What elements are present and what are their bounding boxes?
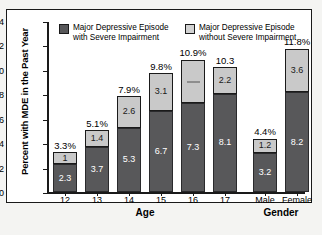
legend-line-2: without Severe Impairment <box>199 33 296 42</box>
y-tick-label-10: 10 <box>0 66 4 76</box>
bar-segment-light: 1.4 <box>85 130 109 147</box>
bar-age-12[interactable]: 3.3% 1 2.3 <box>53 152 77 192</box>
x-tick-label-gender-female: Female <box>282 195 312 205</box>
x-tick-label-age-12: 12 <box>60 195 70 205</box>
bar-segment-light: 3.1 <box>149 73 173 111</box>
bar-total-label: 10.3 <box>216 55 235 66</box>
bar-gender-male[interactable]: 4.4% 1.2 3.2 <box>253 139 277 192</box>
bars-container: 3.3% 1 2.3 5.1% 1.4 3.7 7.9% 2.6 5.3 9.8… <box>47 22 305 192</box>
bar-total-label: 5.1% <box>86 118 108 129</box>
bar-age-16[interactable]: 10.9% 7.3 <box>181 60 205 192</box>
bar-age-15[interactable]: 9.8% 3.1 6.7 <box>149 73 173 192</box>
bar-age-13[interactable]: 5.1% 1.4 3.7 <box>85 130 109 192</box>
y-tick-label-6: 6 <box>0 115 4 125</box>
bar-segment-dark: 2.3 <box>53 164 77 192</box>
bar-segment-dark: 3.2 <box>253 153 277 192</box>
x-axis-line <box>47 192 305 194</box>
bar-segment-dark: 6.7 <box>149 111 173 192</box>
obscured-value-dash <box>187 81 200 83</box>
legend-line-1: Major Depressive Episode <box>73 23 169 32</box>
bar-total-label: 4.4% <box>254 126 276 137</box>
legend-label-without-severe-impairment: Major Depressive Episode without Severe … <box>199 23 296 44</box>
legend-item-with-severe-impairment: Major Depressive Episode with Severe Imp… <box>59 23 169 44</box>
y-tick-label-14: 14 <box>0 17 4 27</box>
bar-total-label: 9.8% <box>150 61 172 72</box>
legend-line-1: Major Depressive Episode <box>199 23 295 32</box>
bar-segment-dark: 5.3 <box>117 128 141 192</box>
x-tick-label-age-15: 15 <box>156 195 166 205</box>
x-group-label-age: Age <box>136 207 155 218</box>
legend-item-without-severe-impairment: Major Depressive Episode without Severe … <box>185 23 296 44</box>
bar-segment-dark: 7.3 <box>181 103 205 192</box>
y-axis-title: Percent with MDE in the Past Year <box>19 17 30 187</box>
bar-segment-light <box>181 60 205 104</box>
legend-line-2: with Severe Impairment <box>73 33 159 42</box>
y-tick-label-12: 12 <box>0 41 4 51</box>
x-tick-label-age-13: 13 <box>92 195 102 205</box>
legend-swatch-light-icon <box>185 24 195 34</box>
bar-total-label: 7.9% <box>118 84 140 95</box>
y-tick-label-2: 2 <box>0 164 4 174</box>
y-tick-label-0: 0 <box>0 188 4 198</box>
bar-segment-light: 1.2 <box>253 139 277 154</box>
legend-swatch-dark-icon <box>59 24 69 34</box>
bar-segment-dark: 3.7 <box>85 147 109 192</box>
x-tick-label-age-16: 16 <box>188 195 198 205</box>
y-tick-label-8: 8 <box>0 90 4 100</box>
bar-segment-light: 2.2 <box>213 67 237 94</box>
bar-segment-light: 3.6 <box>285 49 309 93</box>
bar-segment-light: 2.6 <box>117 96 141 128</box>
x-tick-label-age-14: 14 <box>124 195 134 205</box>
bar-segment-dark: 8.1 <box>213 94 237 192</box>
x-group-label-gender: Gender <box>263 207 298 218</box>
y-tick-label-4: 4 <box>0 139 4 149</box>
x-tick-label-gender-male: Male <box>255 195 275 205</box>
bar-gender-female[interactable]: 11.8% 3.6 8.2 <box>285 49 309 192</box>
legend-label-with-severe-impairment: Major Depressive Episode with Severe Imp… <box>73 23 169 44</box>
chart-figure: Percent with MDE in the Past Year 14 12 … <box>0 0 322 235</box>
bar-total-label: 10.9% <box>180 47 207 58</box>
bar-age-14[interactable]: 7.9% 2.6 5.3 <box>117 96 141 192</box>
bar-age-17[interactable]: 10.3 2.2 8.1 <box>213 67 237 192</box>
bar-segment-light: 1 <box>53 152 77 164</box>
bar-segment-dark: 8.2 <box>285 92 309 192</box>
bar-total-label: 3.3% <box>54 140 76 151</box>
plot-frame: Percent with MDE in the Past Year 14 12 … <box>6 9 312 203</box>
x-tick-label-age-17: 17 <box>220 195 230 205</box>
